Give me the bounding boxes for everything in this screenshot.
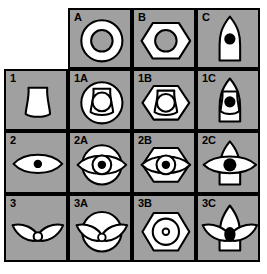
matrix-cell-2A[interactable]: 2A [68, 131, 132, 194]
matrix-cell-1B[interactable]: 1B [132, 69, 196, 131]
matrix-cell-2B[interactable]: 2B [132, 131, 196, 194]
shape-hexagon-barrel [134, 71, 194, 129]
shape-matrix-grid: A B C 1 [0, 0, 267, 274]
matrix-cell-2[interactable]: 2 [4, 131, 68, 194]
shape-bullet-wings-dot [198, 196, 258, 260]
matrix-cell-A[interactable]: A [68, 8, 132, 69]
shape-bullet-barrel-dot [198, 71, 258, 129]
shape-circle-eye-dot [70, 133, 130, 192]
shape-hexagon-ring [134, 10, 194, 67]
shape-circle-barrel [70, 71, 130, 129]
shape-wings-ring [6, 196, 66, 260]
shape-barrel [6, 71, 66, 129]
matrix-cell-1C[interactable]: 1C [196, 69, 260, 131]
shape-bullet-dot [198, 10, 258, 67]
shape-circle-wings [70, 196, 130, 260]
matrix-cell-2C[interactable]: 2C [196, 131, 260, 194]
matrix-cell-corner [4, 8, 68, 68]
matrix-cell-3[interactable]: 3 [4, 194, 68, 262]
matrix-cell-B[interactable]: B [132, 8, 196, 69]
matrix-cell-3C[interactable]: 3C [196, 194, 260, 262]
matrix-cell-1[interactable]: 1 [4, 69, 68, 131]
shape-circle-ring [70, 10, 130, 67]
matrix-cell-3B[interactable]: 3B [132, 194, 196, 262]
matrix-cell-C[interactable]: C [196, 8, 260, 69]
shape-hexagon-eye-dot [134, 133, 194, 192]
shape-hexagon-circle-ring [134, 196, 194, 260]
matrix-cell-1A[interactable]: 1A [68, 69, 132, 131]
shape-eye-dot [6, 133, 66, 192]
matrix-cell-3A[interactable]: 3A [68, 194, 132, 262]
shape-bullet-eye-dot [198, 133, 258, 192]
